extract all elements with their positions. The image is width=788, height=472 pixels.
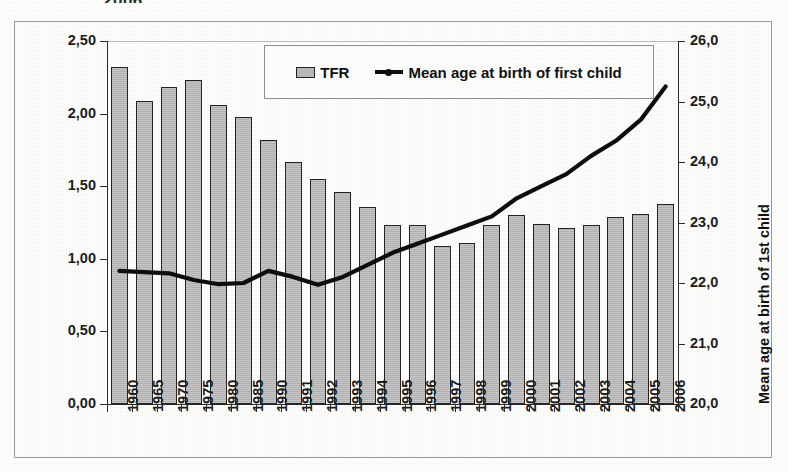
left-tick-mark (100, 259, 107, 260)
x-tick-mark (231, 404, 232, 412)
x-tick-mark (604, 404, 605, 412)
x-tick-mark (579, 404, 580, 412)
x-tick-mark (430, 404, 431, 412)
right-tick-label: 26,0 (690, 32, 742, 48)
left-tick-mark (100, 41, 107, 42)
x-tick-mark (554, 404, 555, 412)
x-tick-mark (107, 404, 108, 412)
right-tick-label: 25,0 (690, 93, 742, 109)
right-axis-title: Mean age at birth of 1st child (756, 204, 772, 404)
legend-line-swatch-icon (375, 70, 403, 74)
right-tick-label: 24,0 (690, 153, 742, 169)
left-tick-mark (100, 114, 107, 115)
right-tick-mark (678, 162, 685, 163)
left-tick-mark (100, 404, 107, 405)
x-tick-mark (405, 404, 406, 412)
legend-label-mean-age: Mean age at birth of first child (408, 64, 621, 81)
legend-item-mean-age: Mean age at birth of first child (375, 64, 621, 81)
x-tick-mark (355, 404, 356, 412)
chart-legend: TFR Mean age at birth of first child (264, 45, 654, 99)
x-tick-mark (653, 404, 654, 412)
right-tick-mark (678, 344, 685, 345)
left-tick-label: 1,50 (44, 177, 96, 193)
x-tick-mark (504, 404, 505, 412)
left-tick-label: 0,00 (44, 395, 96, 411)
x-tick-mark (306, 404, 307, 412)
right-tick-mark (678, 102, 685, 103)
left-tick-label: 2,50 (44, 32, 96, 48)
right-tick-label: 23,0 (690, 214, 742, 230)
x-tick-mark (628, 404, 629, 412)
right-tick-mark (678, 283, 685, 284)
right-tick-label: 20,0 (690, 395, 742, 411)
mean-age-line-path (119, 86, 665, 284)
x-tick-mark (281, 404, 282, 412)
x-tick-mark (455, 404, 456, 412)
x-tick-mark (181, 404, 182, 412)
left-tick-label: 2,00 (44, 105, 96, 121)
x-tick-mark (330, 404, 331, 412)
cut-off-page-title: 2006 (103, 0, 143, 3)
x-tick-mark (479, 404, 480, 412)
left-tick-label: 1,00 (44, 250, 96, 266)
x-tick-mark (380, 404, 381, 412)
x-tick-mark (206, 404, 207, 412)
legend-item-tfr: TFR (296, 64, 349, 81)
left-tick-mark (100, 186, 107, 187)
x-tick-mark (132, 404, 133, 412)
left-tick-mark (100, 331, 107, 332)
x-tick-mark (157, 404, 158, 412)
right-tick-mark (678, 41, 685, 42)
left-tick-label: 0,50 (44, 322, 96, 338)
legend-bar-swatch-icon (296, 67, 315, 78)
x-tick-mark (529, 404, 530, 412)
right-tick-label: 22,0 (690, 274, 742, 290)
right-tick-mark (678, 223, 685, 224)
right-tick-label: 21,0 (690, 335, 742, 351)
legend-label-tfr: TFR (320, 64, 349, 81)
x-tick-mark (678, 404, 679, 412)
x-tick-mark (256, 404, 257, 412)
